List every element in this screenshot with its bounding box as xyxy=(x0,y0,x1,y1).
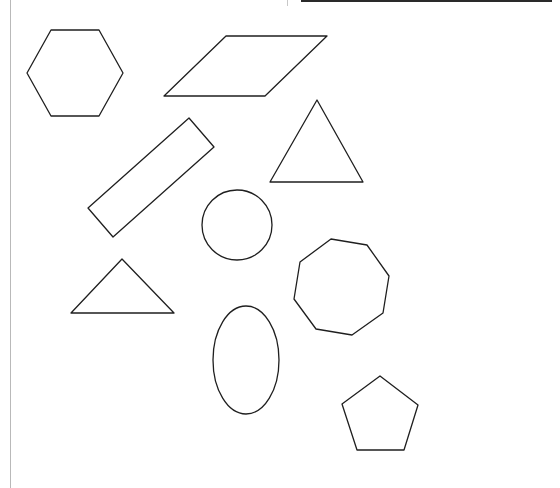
worksheet-page xyxy=(0,0,560,488)
rotated-rectangle-shape xyxy=(88,118,214,237)
circle-shape xyxy=(202,190,272,260)
parallelogram-shape xyxy=(164,36,327,96)
hexagon-shape xyxy=(27,30,123,116)
shapes-canvas xyxy=(0,0,560,488)
octagon-shape xyxy=(294,239,389,335)
ellipse-shape xyxy=(213,306,279,414)
pentagon-shape xyxy=(342,376,418,450)
triangle-upper-shape xyxy=(270,100,363,182)
triangle-lower-shape xyxy=(71,259,174,313)
